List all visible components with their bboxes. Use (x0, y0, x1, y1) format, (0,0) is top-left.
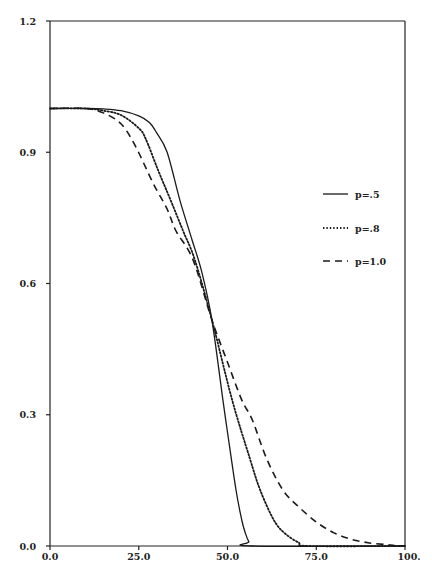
legend-label: p=1.0 (355, 256, 387, 267)
x-tick-label: 25.0 (127, 551, 151, 562)
y-tick-label: 0.6 (19, 278, 36, 289)
y-tick-label: 0.0 (19, 541, 36, 552)
legend-label: p=.5 (355, 189, 380, 200)
x-tick-label: 0.0 (42, 551, 59, 562)
legend: p=.5p=.8p=1.0 (323, 189, 387, 267)
x-tick-label: 100. (397, 551, 420, 562)
x-axis-ticks: 0.025.050.075.0100. (42, 546, 421, 562)
line-chart: 0.00.30.60.91.2 0.025.050.075.0100. p=.5… (0, 0, 432, 581)
series-line-p-1-0 (50, 108, 405, 546)
x-tick-label: 75.0 (305, 551, 329, 562)
series-lines (50, 108, 405, 546)
y-tick-label: 0.9 (19, 147, 36, 158)
plot-frame (50, 21, 405, 546)
series-line-p-5 (50, 108, 405, 546)
legend-label: p=.8 (355, 223, 380, 234)
y-axis-ticks: 0.00.30.60.91.2 (19, 16, 50, 552)
series-line-p-8 (50, 108, 405, 546)
x-tick-label: 50.0 (216, 551, 240, 562)
y-tick-label: 1.2 (19, 16, 36, 27)
y-tick-label: 0.3 (19, 409, 36, 420)
